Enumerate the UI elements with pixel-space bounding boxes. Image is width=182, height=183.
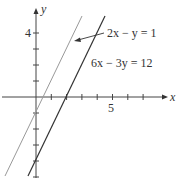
equation-label-1: 2x − y = 1: [107, 27, 157, 39]
annotation-arrowhead-icon: [74, 38, 81, 43]
equation-label-2: 6x − 3y = 12: [91, 57, 153, 69]
line-2x-y-1: [5, 16, 82, 176]
line-6x-3y-12: [28, 16, 105, 176]
y-axis-label: y: [41, 3, 46, 15]
x-tick-label-5: 5: [108, 102, 114, 114]
y-axis-arrow-icon: [34, 8, 39, 14]
x-axis-arrow-icon: [162, 95, 168, 100]
x-axis-label: x: [170, 91, 175, 103]
annotation-arrow: [78, 33, 104, 40]
y-tick-label-4: 4: [25, 27, 31, 39]
